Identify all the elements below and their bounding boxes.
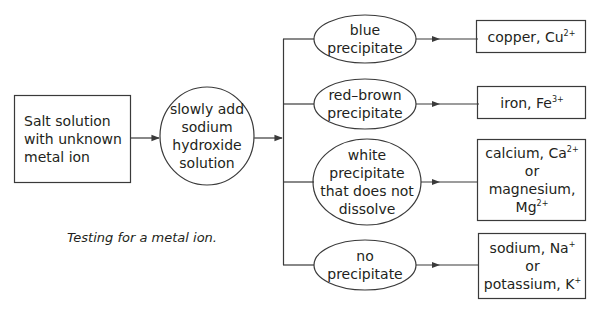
- start-line-3: metal ion: [24, 148, 90, 166]
- ion-name: Mg: [516, 199, 537, 215]
- result-line: sodium, Na+: [490, 239, 576, 257]
- result-line: iron, Fe3+: [500, 94, 563, 112]
- ion-name: copper, Cu: [488, 29, 564, 45]
- observation-white: white precipitate that does not dissolve: [313, 139, 421, 225]
- ion-charge: +: [569, 240, 576, 249]
- observation-text: that does not: [320, 182, 414, 200]
- process-line-2: sodium: [181, 118, 232, 136]
- result-line: Mg2+: [516, 198, 549, 216]
- result-copper: copper, Cu2+: [477, 20, 586, 53]
- start-line-1: Salt solution: [24, 112, 111, 130]
- ion-name: sodium, Na: [490, 240, 569, 256]
- observation-red-brown: red–brown precipitate: [314, 79, 416, 129]
- process-line-1: slowly add: [170, 100, 244, 118]
- observation-text: white: [348, 146, 386, 164]
- result-line: magnesium,: [489, 180, 576, 198]
- ion-charge: 3+: [552, 95, 564, 104]
- start-line-2: with unknown: [24, 130, 122, 148]
- ion-charge: +: [574, 276, 581, 285]
- observation-blue: blue precipitate: [314, 15, 416, 63]
- observation-text: blue: [350, 21, 380, 39]
- observation-text: precipitate: [327, 104, 402, 122]
- result-calcium-magnesium: calcium, Ca2+ or magnesium, Mg2+: [478, 139, 586, 221]
- ion-name: potassium, K: [484, 276, 575, 292]
- process-circle: slowly add sodium hydroxide solution: [160, 87, 254, 185]
- process-line-4: solution: [179, 154, 234, 172]
- observation-text: dissolve: [339, 200, 396, 218]
- observation-text: precipitate: [327, 39, 402, 57]
- observation-none: no precipitate: [314, 240, 416, 290]
- result-iron: iron, Fe3+: [478, 86, 586, 119]
- ion-charge: 2+: [567, 145, 579, 154]
- result-sodium-potassium: sodium, Na+ or potassium, K+: [479, 233, 586, 299]
- figure-caption: Testing for a metal ion.: [67, 230, 217, 245]
- result-line: or: [525, 257, 539, 275]
- result-line: potassium, K+: [484, 275, 581, 293]
- ion-name: calcium, Ca: [485, 145, 567, 161]
- ion-name: iron, Fe: [500, 95, 552, 111]
- start-box: Salt solution with unknown metal ion: [24, 95, 128, 182]
- ion-charge: 2+: [537, 199, 549, 208]
- process-line-3: hydroxide: [172, 136, 241, 154]
- ion-charge: 2+: [564, 29, 576, 38]
- result-line: calcium, Ca2+: [485, 144, 578, 162]
- observation-text: no: [356, 247, 373, 265]
- result-line: or: [525, 162, 539, 180]
- result-line: copper, Cu2+: [488, 28, 576, 46]
- observation-text: precipitate: [327, 265, 402, 283]
- observation-text: precipitate: [329, 164, 404, 182]
- observation-text: red–brown: [328, 86, 401, 104]
